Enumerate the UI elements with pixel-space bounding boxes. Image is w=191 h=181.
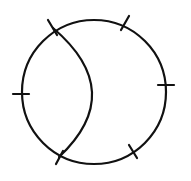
outer-circle bbox=[22, 20, 166, 164]
inner-arc bbox=[53, 28, 92, 157]
circle-diagram bbox=[0, 0, 191, 181]
tick-marks bbox=[13, 16, 174, 164]
